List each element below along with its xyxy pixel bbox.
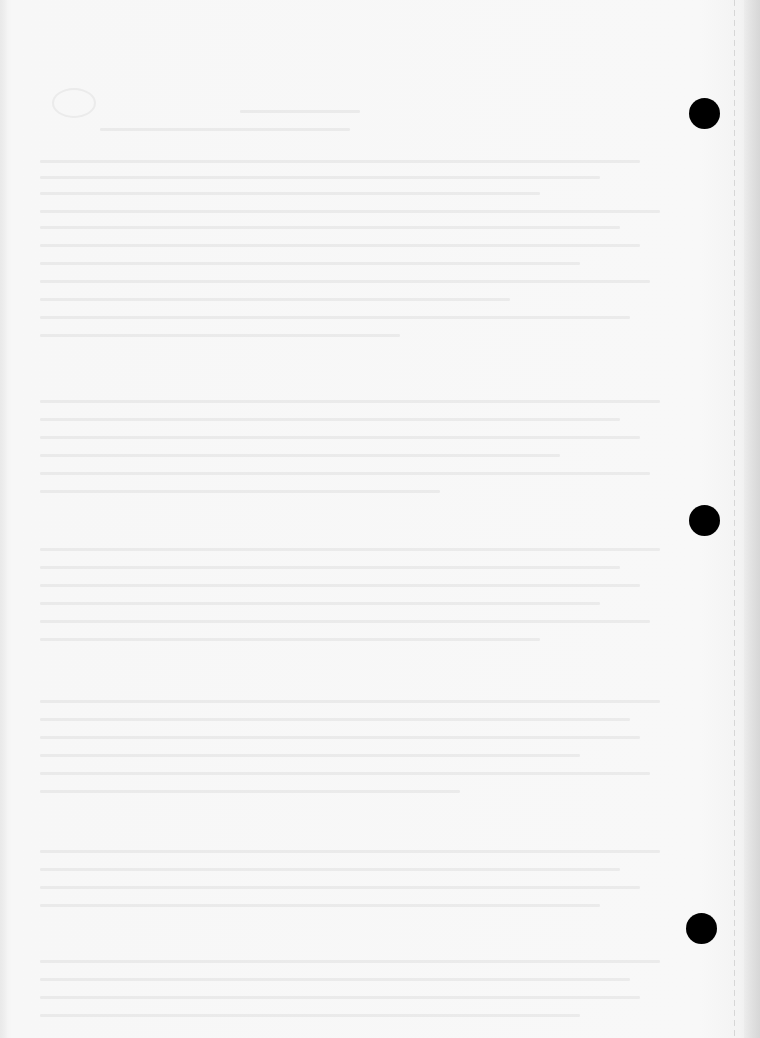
bleed-through-line (240, 110, 360, 113)
bleed-through-line (40, 400, 660, 403)
bleed-through-line (40, 418, 620, 421)
bleed-through-line (100, 128, 350, 131)
bleed-through-line (40, 472, 650, 475)
bleed-through-line (40, 868, 620, 871)
page-right-edge-shadow (744, 0, 760, 1038)
bleed-through-line (40, 638, 540, 641)
bleed-through-line (40, 602, 600, 605)
bleed-through-line (40, 886, 640, 889)
bleed-through-line (40, 790, 460, 793)
punch-hole-middle (689, 505, 720, 536)
bleed-through-line (40, 436, 640, 439)
bleed-through-line (40, 226, 620, 229)
punch-hole-top (689, 98, 720, 129)
page-left-edge-shadow (0, 0, 8, 1038)
bleed-through-line (40, 244, 640, 247)
bleed-through-line (40, 548, 660, 551)
bleed-through-line (40, 620, 650, 623)
bleed-through-line (40, 584, 640, 587)
bleed-through-line (40, 176, 600, 179)
bleed-through-line (40, 1014, 580, 1017)
bleed-through-line (40, 718, 630, 721)
bleed-through-mark (52, 88, 96, 118)
bleed-through-line (40, 566, 620, 569)
bleed-through-line (40, 490, 440, 493)
bleed-through-line (40, 772, 650, 775)
bleed-through-line (40, 700, 660, 703)
bleed-through-line (40, 334, 400, 337)
bleed-through-line (40, 978, 630, 981)
bleed-through-line (40, 262, 580, 265)
bleed-through-line (40, 904, 600, 907)
bleed-through-line (40, 850, 660, 853)
bleed-through-line (40, 192, 540, 195)
bleed-through-line (40, 736, 640, 739)
bleed-through-line (40, 280, 650, 283)
bleed-through-line (40, 210, 660, 213)
bleed-through-line (40, 160, 640, 163)
punch-hole-bottom (686, 913, 717, 944)
bleed-through-line (40, 298, 510, 301)
scanned-page (0, 0, 760, 1038)
bleed-through-line (40, 996, 640, 999)
bleed-through-line (40, 454, 560, 457)
bleed-through-line (40, 960, 660, 963)
bleed-through-line (40, 316, 630, 319)
bleed-through-line (40, 754, 580, 757)
fold-line (734, 0, 735, 1038)
